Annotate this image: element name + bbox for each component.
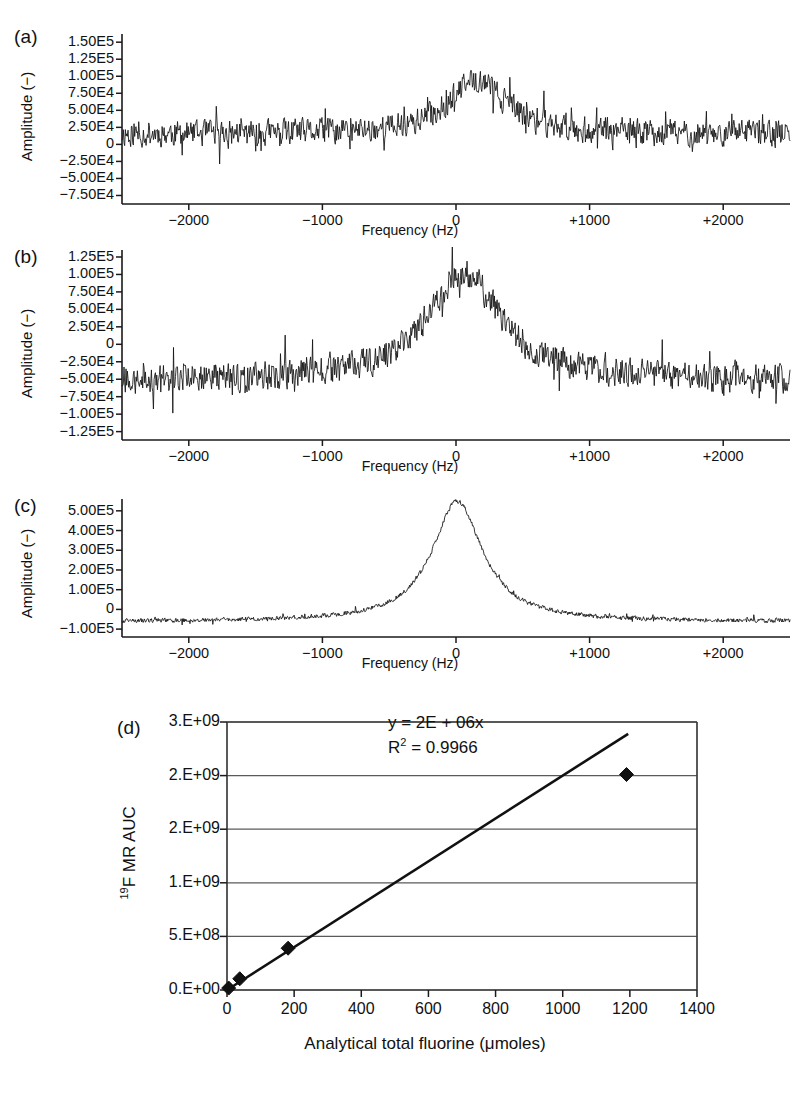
data-point-marker xyxy=(620,768,634,782)
y-tick-label: 5.E+08 xyxy=(137,926,220,944)
y-tick-label: 4.00E5 xyxy=(42,522,114,538)
figure-container: (a) Amplitude (−) 1.50E51.25E51.00E57.50… xyxy=(0,0,806,1095)
r-squared-value: = 0.9966 xyxy=(406,738,477,757)
y-tick-label: −5.00E4 xyxy=(42,169,114,185)
spectrum-trace xyxy=(122,500,790,625)
r-squared-symbol: R xyxy=(388,738,400,757)
y-tick-label: 2.E+09 xyxy=(137,819,220,837)
x-tick-label: −2000 xyxy=(144,212,234,228)
y-tick-label: 3.00E5 xyxy=(42,541,114,557)
y-tick-label: −1.00E5 xyxy=(42,620,114,636)
x-tick-label: +2000 xyxy=(678,645,768,661)
panel-a-xlabel: Frequency (Hz) xyxy=(250,222,570,238)
y-tick-label: 7.50E4 xyxy=(42,283,114,299)
panel-a-label: (a) xyxy=(14,26,38,48)
y-tick-label: 1.25E5 xyxy=(42,248,114,264)
y-tick-label: −5.00E4 xyxy=(42,370,114,386)
spectrum-trace xyxy=(122,70,790,164)
y-tick-label: 0 xyxy=(42,600,114,616)
y-tick-label: −2.50E4 xyxy=(42,353,114,369)
y-tick-label: 1.25E5 xyxy=(42,50,114,66)
panel-c-xlabel: Frequency (Hz) xyxy=(250,655,570,671)
spectrum-trace xyxy=(122,247,790,413)
y-tick-label: 2.50E4 xyxy=(42,318,114,334)
panel-b-label: (b) xyxy=(14,246,38,268)
x-tick-label: −2000 xyxy=(144,645,234,661)
y-tick-label: 1.00E5 xyxy=(42,67,114,83)
y-tick-label: 0 xyxy=(42,335,114,351)
y-tick-label: −7.50E4 xyxy=(42,186,114,202)
y-tick-label: −2.50E4 xyxy=(42,152,114,168)
panel-a-plot xyxy=(0,0,806,245)
y-tick-label: 1.00E5 xyxy=(42,265,114,281)
y-tick-label: 0 xyxy=(42,135,114,151)
panel-d-xlabel: Analytical total fluorine (μmoles) xyxy=(200,1034,650,1054)
y-tick-label: 5.00E4 xyxy=(42,101,114,117)
y-tick-label: 0.E+00 xyxy=(137,980,220,998)
y-tick-label: 2.50E4 xyxy=(42,118,114,134)
panel-a: (a) Amplitude (−) 1.50E51.25E51.00E57.50… xyxy=(0,0,806,245)
data-point-marker xyxy=(222,981,236,995)
panel-d-ylabel-superscript: 19 xyxy=(118,887,130,899)
panel-c: (c) Amplitude (−) 5.00E54.00E53.00E52.00… xyxy=(0,485,806,685)
y-tick-label: 1.00E5 xyxy=(42,581,114,597)
panel-b: (b) Amplitude (−) 1.25E51.00E57.50E45.00… xyxy=(0,238,806,486)
panel-a-ylabel: Amplitude (−) xyxy=(18,52,35,182)
y-tick-label: 2.E+09 xyxy=(137,766,220,784)
x-tick-label: +2000 xyxy=(678,212,768,228)
x-tick-label: 1400 xyxy=(652,1000,742,1018)
regression-equation: y = 2E + 06x xyxy=(388,713,483,733)
panel-d-ylabel: 19F MR AUC xyxy=(118,763,140,943)
x-tick-label: +2000 xyxy=(678,448,768,464)
y-tick-label: 3.E+09 xyxy=(137,712,220,730)
y-tick-label: 1.E+09 xyxy=(137,873,220,891)
y-tick-label: 2.00E5 xyxy=(42,561,114,577)
panel-d-ylabel-main: F MR AUC xyxy=(120,806,139,887)
x-tick-label: −2000 xyxy=(144,448,234,464)
y-tick-label: −7.50E4 xyxy=(42,388,114,404)
y-tick-label: 5.00E4 xyxy=(42,300,114,316)
y-tick-label: 7.50E4 xyxy=(42,84,114,100)
panel-c-ylabel: Amplitude (−) xyxy=(18,509,35,639)
y-tick-label: −1.25E5 xyxy=(42,423,114,439)
panel-d: (d) 19F MR AUC 0.E+005.E+081.E+092.E+092… xyxy=(0,690,806,1095)
r-squared-annotation: R2 = 0.9966 xyxy=(388,736,478,758)
panel-b-xlabel: Frequency (Hz) xyxy=(250,458,570,474)
panel-b-ylabel: Amplitude (−) xyxy=(18,289,35,419)
y-tick-label: 1.50E5 xyxy=(42,33,114,49)
y-tick-label: −1.00E5 xyxy=(42,405,114,421)
y-tick-label: 5.00E5 xyxy=(42,502,114,518)
